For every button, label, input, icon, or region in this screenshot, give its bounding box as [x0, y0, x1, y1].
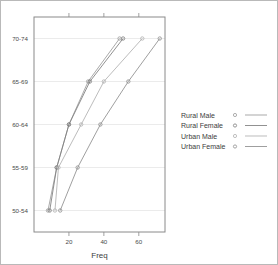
- y-tick-label-50-54: 50-54: [12, 207, 28, 214]
- legend-label-1: Rural Female: [181, 122, 223, 129]
- y-tick-label-55-59: 55-59: [12, 164, 28, 171]
- x-tick-label-20: 20: [65, 238, 72, 245]
- legend-label-3: Urban Female: [181, 143, 225, 150]
- x-tick-label-60: 60: [135, 238, 142, 245]
- y-tick-label-70-74: 70-74: [12, 35, 28, 42]
- legend-label-0: Rural Male: [181, 112, 215, 119]
- x-axis-title: Freq: [91, 251, 107, 260]
- legend-marker-1: [233, 124, 236, 127]
- x-tick-label-40: 40: [100, 238, 107, 245]
- legend-marker-0: [233, 113, 236, 116]
- legend-marker-2: [233, 134, 236, 137]
- y-tick-label-60-64: 60-64: [12, 121, 28, 128]
- chart-canvas: 20406050-5455-5960-6465-6970-74FreqRural…: [1, 1, 278, 265]
- y-tick-label-65-69: 65-69: [12, 78, 28, 85]
- legend-marker-3: [233, 145, 236, 148]
- chart-page: 20406050-5455-5960-6465-6970-74FreqRural…: [0, 0, 278, 265]
- line-chart-svg: 20406050-5455-5960-6465-6970-74FreqRural…: [1, 1, 278, 265]
- legend-label-2: Urban Male: [181, 133, 217, 140]
